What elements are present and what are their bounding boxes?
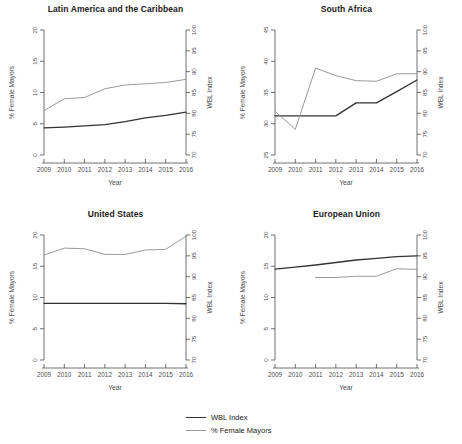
svg-text:90: 90 [421,68,428,75]
svg-text:35: 35 [262,89,269,96]
legend-item-wbl-index: WBL Index [186,408,247,421]
panel-united-states: United States 05101520% Female Mayors707… [0,205,231,405]
svg-text:100: 100 [190,24,197,35]
svg-text:45: 45 [262,26,269,33]
svg-text:2015: 2015 [390,166,405,173]
svg-text:2012: 2012 [98,371,113,378]
svg-text:70: 70 [190,356,197,363]
svg-text:% Female Mayors: % Female Mayors [8,65,16,119]
svg-text:5: 5 [262,326,269,330]
svg-text:2015: 2015 [159,166,174,173]
plot-south-africa: 2530354045% Female Mayors707580859095100… [231,0,462,200]
svg-text:Year: Year [339,384,353,391]
svg-text:75: 75 [190,130,197,137]
svg-text:90: 90 [421,273,428,280]
svg-text:2015: 2015 [159,371,174,378]
svg-text:5: 5 [31,326,38,330]
svg-text:2010: 2010 [288,371,303,378]
legend-label-female-mayors: % Female Mayors [211,426,271,435]
svg-text:80: 80 [190,109,197,116]
svg-text:85: 85 [190,89,197,96]
panel-european-union: European Union 05101520% Female Mayors70… [231,205,462,405]
svg-text:10: 10 [262,294,269,301]
svg-text:2016: 2016 [410,166,425,173]
svg-text:85: 85 [421,89,428,96]
svg-text:2014: 2014 [138,166,153,173]
svg-text:2011: 2011 [78,166,92,173]
svg-text:2016: 2016 [410,371,425,378]
svg-text:75: 75 [190,335,197,342]
svg-text:2010: 2010 [57,166,72,173]
svg-text:85: 85 [421,294,428,301]
svg-text:0: 0 [31,153,38,157]
svg-text:2009: 2009 [37,166,52,173]
svg-text:80: 80 [421,314,428,321]
svg-text:0: 0 [262,358,269,362]
svg-text:25: 25 [262,151,269,158]
svg-text:70: 70 [190,151,197,158]
svg-text:10: 10 [31,294,38,301]
svg-text:2009: 2009 [268,166,283,173]
panel-latin-america: Latin America and the Caribbean 05101520… [0,0,231,200]
plot-united-states: 05101520% Female Mayors707580859095100WB… [0,205,231,405]
svg-text:% Female Mayors: % Female Mayors [239,270,247,324]
svg-text:2013: 2013 [349,166,364,173]
svg-text:WBL Index: WBL Index [206,76,213,109]
svg-text:2014: 2014 [138,371,153,378]
svg-text:70: 70 [421,356,428,363]
svg-text:WBL Index: WBL Index [206,281,213,314]
svg-text:80: 80 [190,314,197,321]
svg-text:15: 15 [31,262,38,269]
svg-text:Year: Year [108,179,122,186]
svg-text:2013: 2013 [118,166,133,173]
svg-text:100: 100 [421,229,428,240]
svg-text:100: 100 [190,229,197,240]
svg-text:75: 75 [421,130,428,137]
svg-text:2009: 2009 [37,371,52,378]
legend-swatch-female-mayors [186,430,206,431]
svg-text:2012: 2012 [329,166,344,173]
svg-text:95: 95 [190,47,197,54]
svg-text:Year: Year [108,384,122,391]
svg-text:0: 0 [31,358,38,362]
panel-south-africa: South Africa 2530354045% Female Mayors70… [231,0,462,200]
svg-text:2013: 2013 [349,371,364,378]
svg-text:90: 90 [190,273,197,280]
svg-text:80: 80 [421,109,428,116]
svg-text:20: 20 [31,231,38,238]
svg-text:70: 70 [421,151,428,158]
figure-multi-panel-chart: Latin America and the Caribbean 05101520… [0,0,462,444]
svg-text:30: 30 [262,120,269,127]
svg-text:5: 5 [31,121,38,125]
svg-text:Year: Year [339,179,353,186]
svg-text:15: 15 [262,262,269,269]
svg-text:85: 85 [190,294,197,301]
svg-text:75: 75 [421,335,428,342]
chart-legend: WBL Index % Female Mayors [0,404,462,444]
svg-text:2012: 2012 [329,371,344,378]
svg-text:2011: 2011 [309,371,323,378]
svg-text:WBL Index: WBL Index [437,281,444,314]
plot-latin-america: 05101520% Female Mayors707580859095100WB… [0,0,231,200]
svg-text:20: 20 [262,231,269,238]
svg-text:95: 95 [190,252,197,259]
svg-text:2013: 2013 [118,371,133,378]
svg-text:95: 95 [421,252,428,259]
svg-text:2014: 2014 [369,371,384,378]
svg-text:2015: 2015 [390,371,405,378]
svg-text:95: 95 [421,47,428,54]
svg-text:2009: 2009 [268,371,283,378]
svg-text:40: 40 [262,57,269,64]
svg-text:90: 90 [190,68,197,75]
svg-text:2016: 2016 [179,166,194,173]
svg-text:% Female Mayors: % Female Mayors [239,65,247,119]
svg-text:2010: 2010 [57,371,72,378]
legend-item-female-mayors: % Female Mayors [186,421,271,434]
svg-text:2014: 2014 [369,166,384,173]
svg-text:20: 20 [31,26,38,33]
svg-text:10: 10 [31,89,38,96]
svg-text:15: 15 [31,57,38,64]
svg-text:2011: 2011 [309,166,323,173]
svg-text:2016: 2016 [179,371,194,378]
svg-text:WBL Index: WBL Index [437,76,444,109]
